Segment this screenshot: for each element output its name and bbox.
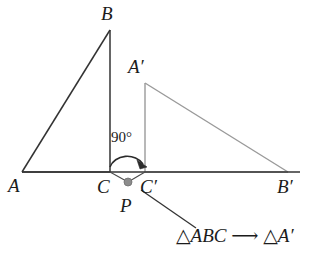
mapping-caption: △ABC ⟶ △A′ [176,226,294,245]
segment-A-B [22,30,110,172]
vertex-label-B: B [101,4,113,23]
center-of-rotation-dot [124,178,132,186]
rotation-angle-label: 90° [111,130,132,145]
vertex-label-C: C [97,177,110,196]
preimage-triangle-group [22,30,110,172]
vertex-label-A-prime: A′ [128,57,144,76]
geometry-figure: A B C A′ B′ C′ P 90° △ABC ⟶ △A′ [0,0,311,260]
image-triangle-group [145,83,288,172]
center-of-rotation-label: P [120,196,132,215]
vertex-label-C-prime: C′ [140,177,157,196]
diagram-canvas [0,0,311,260]
vertex-label-B-prime: B′ [277,177,293,196]
vertex-label-A: A [8,176,20,195]
segment-A-prime-B-prime [145,83,288,172]
rotation-arc-group [110,156,147,169]
